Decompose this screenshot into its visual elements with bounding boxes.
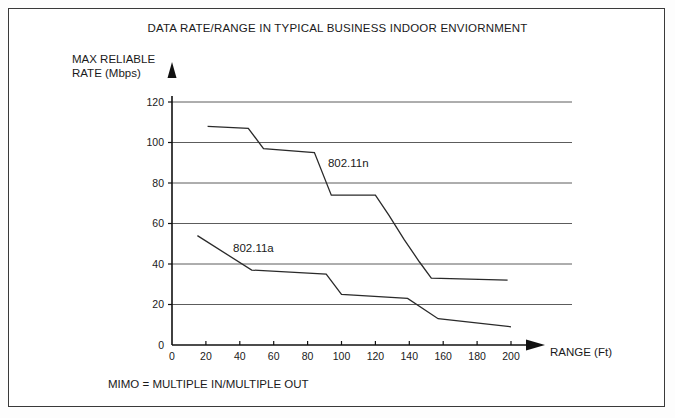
chart-plot: 020406080100120 020406080100120140160180… — [0, 0, 675, 418]
x-tick-label: 60 — [268, 350, 280, 362]
x-axis-caption: RANGE (Ft) — [550, 346, 612, 358]
y-tick-label: 100 — [146, 136, 164, 148]
x-tick-label: 180 — [468, 350, 486, 362]
series-label-802-11n: 802.11n — [328, 157, 369, 169]
series-label-802-11a: 802.11a — [233, 242, 274, 254]
x-axis-arrowhead — [526, 340, 545, 351]
y-tick-label: 40 — [152, 258, 164, 270]
series-line-802-11n — [208, 126, 508, 280]
x-tick-label: 200 — [502, 350, 520, 362]
y-tick-label: 0 — [158, 339, 164, 351]
x-tick-label: 20 — [200, 350, 212, 362]
x-tick-label: 100 — [333, 350, 351, 362]
x-tick-label: 140 — [401, 350, 419, 362]
x-tick-label: 0 — [169, 350, 175, 362]
y-tick-label: 120 — [146, 96, 164, 108]
x-tick-label: 120 — [367, 350, 385, 362]
footer-note: MIMO = MULTIPLE IN/MULTIPLE OUT — [108, 378, 309, 390]
x-tick-labels-group: 020406080100120140160180200 — [169, 341, 520, 362]
y-tick-labels-group: 020406080100120 — [146, 96, 172, 351]
y-tick-label: 60 — [152, 217, 164, 229]
y-tick-label: 20 — [152, 298, 164, 310]
series-labels-group: 802.11n802.11a — [233, 157, 369, 254]
x-tick-label: 80 — [302, 350, 314, 362]
figure-page: DATA RATE/RANGE IN TYPICAL BUSINESS INDO… — [0, 0, 675, 418]
x-tick-label: 160 — [434, 350, 452, 362]
y-axis-arrowhead — [168, 62, 177, 78]
y-tick-label: 80 — [152, 177, 164, 189]
gridlines-group — [172, 102, 572, 305]
x-tick-label: 40 — [234, 350, 246, 362]
